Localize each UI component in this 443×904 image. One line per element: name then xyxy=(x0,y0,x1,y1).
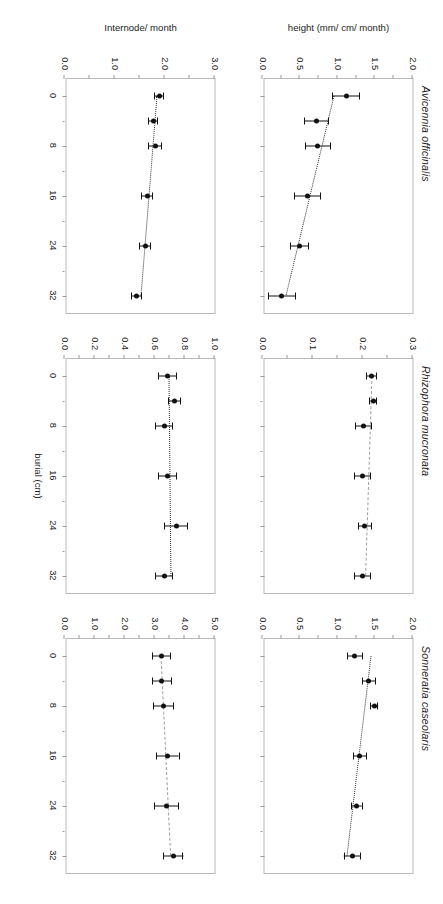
y-tick xyxy=(311,355,312,359)
plot-area xyxy=(264,359,412,593)
error-bar-cap xyxy=(366,753,367,760)
error-bar-cap xyxy=(148,143,149,150)
error-bar-cap xyxy=(169,653,170,660)
x-tick xyxy=(62,296,66,297)
x-tick-label: 0 xyxy=(47,653,57,658)
data-point xyxy=(153,144,158,149)
y-tick-label: 0.0 xyxy=(257,617,267,630)
species-title: Sonneratia caseolaris xyxy=(419,646,431,751)
error-bar-cap xyxy=(352,753,353,760)
x-tick-label: 32 xyxy=(47,570,57,580)
x-tick xyxy=(62,526,66,527)
error-bar-cap xyxy=(366,373,367,380)
data-point xyxy=(305,194,310,199)
plot-frame: 0.00.51.01.52.0 xyxy=(263,78,413,314)
error-bar-cap xyxy=(376,398,377,405)
y-tick-label: 5.0 xyxy=(209,617,219,630)
y-tick-minor xyxy=(392,635,393,638)
y-tick xyxy=(63,635,64,639)
x-tick-minor xyxy=(260,121,263,122)
data-point xyxy=(164,804,169,809)
y-tick-label: 0.2 xyxy=(357,337,367,350)
x-tick-minor xyxy=(260,171,263,172)
x-tick xyxy=(62,96,66,97)
error-bar-cap xyxy=(172,703,173,710)
x-tick xyxy=(62,756,66,757)
y-tick-label: 1.0 xyxy=(89,617,99,630)
y-tick-minor xyxy=(88,75,89,78)
x-tick xyxy=(62,806,66,807)
y-tick-label: 1.0 xyxy=(109,57,119,70)
x-tick xyxy=(62,246,66,247)
x-tick xyxy=(260,196,264,197)
y-tick-minor xyxy=(355,635,356,638)
y-tick-minor xyxy=(168,355,169,358)
y-tick-label: 3.0 xyxy=(149,617,159,630)
error-bar-cap xyxy=(361,653,362,660)
species-title: Avicennia officinalis xyxy=(419,86,431,182)
plot-area xyxy=(66,79,214,313)
error-bar-cap xyxy=(157,373,158,380)
y-tick xyxy=(411,355,412,359)
x-tick-minor xyxy=(62,681,65,682)
data-point xyxy=(315,144,320,149)
plot-area xyxy=(66,639,214,873)
y-tick-label: 0.0 xyxy=(257,337,267,350)
y-tick xyxy=(153,635,154,639)
x-tick-minor xyxy=(62,221,65,222)
error-bar-cap xyxy=(304,118,305,125)
x-tick-minor xyxy=(62,121,65,122)
data-point xyxy=(161,574,166,579)
error-bar-cap xyxy=(172,423,173,430)
error-bar-cap xyxy=(154,803,155,810)
error-bar-cap xyxy=(187,523,188,530)
x-tick-label: 8 xyxy=(47,423,57,428)
y-tick xyxy=(213,355,214,359)
y-tick xyxy=(374,635,375,639)
y-tick-minor xyxy=(138,75,139,78)
y-tick-label: 0.3 xyxy=(407,337,417,350)
y-tick-minor xyxy=(355,75,356,78)
x-tick xyxy=(260,656,264,657)
data-point xyxy=(161,424,166,429)
x-tick xyxy=(260,756,264,757)
error-bar-cap xyxy=(377,703,378,710)
y-tick xyxy=(411,635,412,639)
y-tick xyxy=(261,75,262,79)
data-point xyxy=(161,704,166,709)
data-point xyxy=(352,654,357,659)
error-bar-cap xyxy=(175,473,176,480)
error-bar-cap xyxy=(182,853,183,860)
x-tick-label: 24 xyxy=(47,240,57,250)
y-tick-label: 0.2 xyxy=(89,337,99,350)
x-tick-minor xyxy=(62,831,65,832)
y-tick-label: 1.0 xyxy=(332,617,342,630)
error-bar-cap xyxy=(154,93,155,100)
error-bar-cap xyxy=(180,398,181,405)
error-bar-cap xyxy=(178,753,179,760)
y-tick-minor xyxy=(280,635,281,638)
plot-frame: 0.00.10.20.3 xyxy=(263,358,413,594)
data-point xyxy=(145,194,150,199)
y-tick-label: 0.6 xyxy=(149,337,159,350)
x-tick xyxy=(260,856,264,857)
x-tick xyxy=(260,806,264,807)
y-tick-label: 1.0 xyxy=(332,57,342,70)
y-tick-label: 0.0 xyxy=(59,337,69,350)
x-tick-minor xyxy=(260,781,263,782)
figure-canvas: y = 0.96 - 0.02xr² = 0.84, p<0.01Avicenn… xyxy=(0,0,443,904)
data-point xyxy=(297,244,302,249)
panel-grid: y = 0.96 - 0.02xr² = 0.84, p<0.01Avicenn… xyxy=(0,0,443,904)
data-point xyxy=(151,119,156,124)
x-tick-minor xyxy=(62,731,65,732)
x-tick-minor xyxy=(260,271,263,272)
x-tick-minor xyxy=(62,401,65,402)
error-bar-cap xyxy=(361,678,362,685)
data-point xyxy=(366,679,371,684)
x-tick-minor xyxy=(260,401,263,402)
y-tick-label: 1.0 xyxy=(209,337,219,350)
plot-frame: 0.01.02.03.0 xyxy=(65,78,215,314)
y-tick-minor xyxy=(138,355,139,358)
plot-area xyxy=(66,359,214,593)
error-bar-cap xyxy=(155,423,156,430)
